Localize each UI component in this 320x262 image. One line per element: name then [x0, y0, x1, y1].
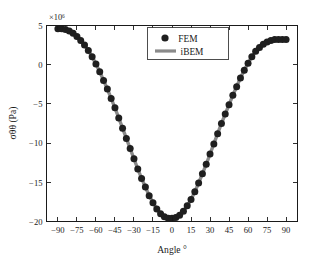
- y-axis-exponent-label: ×10⁶: [49, 13, 65, 22]
- data-point: [207, 151, 214, 158]
- data-point: [222, 111, 229, 118]
- x-tick-label: 90: [282, 225, 291, 235]
- data-point: [184, 202, 191, 209]
- x-tick-label: 60: [244, 225, 253, 235]
- figure-container: −90−75−60−45−30−15015304560759050−5−10−1…: [0, 0, 320, 262]
- data-point: [119, 125, 126, 132]
- x-tick-label: 0: [170, 225, 174, 235]
- data-point: [89, 53, 96, 60]
- data-point: [188, 196, 195, 203]
- data-point: [203, 161, 210, 168]
- data-point: [229, 92, 236, 99]
- data-point: [85, 47, 92, 54]
- legend-marker-fem: [161, 34, 168, 41]
- data-point: [111, 104, 118, 111]
- x-tick-label: 45: [225, 225, 234, 235]
- y-axis-label: σθθ (Pa): [7, 107, 19, 140]
- data-point: [214, 130, 221, 137]
- y-tick-label: 0: [38, 60, 42, 70]
- data-point: [104, 86, 111, 93]
- legend-label-ibem: iBEM: [181, 47, 205, 57]
- data-point: [191, 188, 198, 195]
- data-point: [233, 83, 240, 90]
- data-point: [245, 60, 252, 67]
- data-point: [127, 145, 134, 152]
- data-point: [134, 165, 141, 172]
- y-tick-label: −10: [29, 138, 42, 148]
- x-tick-label: −30: [127, 225, 140, 235]
- x-tick-label: −90: [51, 225, 64, 235]
- x-tick-label: −75: [70, 225, 83, 235]
- y-tick-label: −15: [29, 178, 42, 188]
- x-tick-label: 30: [206, 225, 215, 235]
- data-point: [210, 140, 217, 147]
- data-point: [100, 77, 107, 84]
- y-tick-label: −5: [33, 99, 42, 109]
- legend-label-fem: FEM: [178, 34, 198, 44]
- data-point: [108, 95, 115, 102]
- data-point: [218, 120, 225, 127]
- data-point: [199, 170, 206, 177]
- chart-svg: −90−75−60−45−30−15015304560759050−5−10−1…: [0, 0, 320, 262]
- data-point: [92, 60, 99, 67]
- data-point: [195, 180, 202, 187]
- x-axis-label: Angle °: [157, 244, 187, 255]
- data-point: [138, 175, 145, 182]
- data-point: [226, 101, 233, 108]
- legend[interactable]: FEM iBEM: [148, 28, 229, 60]
- data-point: [149, 199, 156, 206]
- data-point: [283, 36, 290, 43]
- x-tick-label: −15: [146, 225, 159, 235]
- data-point: [115, 115, 122, 122]
- data-point: [146, 192, 153, 199]
- y-tick-label: −20: [29, 217, 42, 227]
- x-tick-label: −60: [89, 225, 102, 235]
- data-point: [241, 67, 248, 74]
- x-tick-label: 75: [263, 225, 272, 235]
- y-tick-label: 5: [38, 21, 42, 31]
- x-tick-label: −45: [108, 225, 121, 235]
- data-point: [96, 68, 103, 75]
- data-point: [142, 184, 149, 191]
- data-point: [123, 135, 130, 142]
- data-point: [237, 75, 244, 82]
- data-point: [130, 155, 137, 162]
- x-tick-label: 15: [187, 225, 196, 235]
